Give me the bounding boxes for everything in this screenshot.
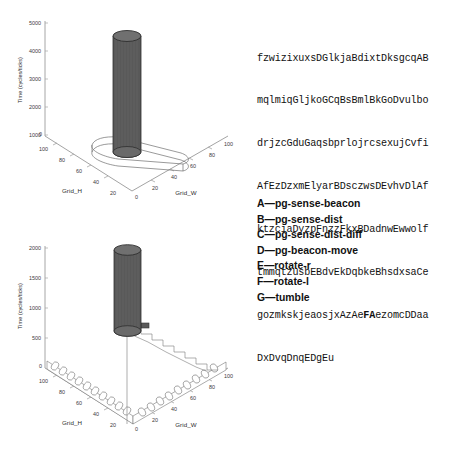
grid-h-tick-label: 0 — [39, 363, 42, 369]
z-tick-label: 2000 — [29, 245, 41, 251]
legend-dash: — — [265, 229, 275, 240]
grid-w-tick-label: 40 — [171, 174, 177, 180]
grid-h-tick-label: 100 — [39, 146, 48, 152]
grid-w-tick-label: 0 — [135, 194, 138, 200]
sequence-line: gozmkskjeaosjxAzAeFAezomcDDaa — [257, 309, 465, 323]
grid-w-axis-title: Grid_W — [175, 421, 197, 428]
grid-h-tick-label: 60 — [76, 168, 82, 174]
staircase-surface — [130, 328, 218, 371]
z-axis-title: Time (cycles/ticks) — [17, 283, 23, 329]
grid-h-tick-label: 60 — [76, 400, 82, 406]
legend-dash: — — [265, 214, 275, 225]
right-column: fzwizixuxsDGlkjaBdixtDksgcqAB mqlmiqGljk… — [252, 0, 465, 457]
z-tick-label: 5000 — [29, 20, 41, 26]
legend-label: pg-beacon-move — [275, 245, 358, 256]
z-ticks — [45, 23, 48, 135]
peak-cylinder — [113, 31, 141, 158]
grid-w-tick-label: 20 — [152, 417, 158, 423]
grid-w-tick-label: 100 — [224, 373, 233, 379]
legend-item: D—pg-beacon-move — [257, 243, 457, 259]
grid-w-tick-label: 80 — [209, 384, 215, 390]
legend-label: tumble — [275, 292, 309, 303]
legend-label: rotate-r — [274, 260, 310, 271]
z-tick-label: 500 — [32, 335, 41, 341]
z-axis-title: Time (cycles/ticks) — [17, 57, 23, 103]
legend: A—pg-sense-beacon B—pg-sense-dist C—pg-s… — [257, 196, 457, 305]
grid-w-tick-label: 0 — [135, 426, 138, 432]
grid-h-tick-label: 100 — [39, 378, 48, 384]
grid-h-tick-label: 20 — [110, 190, 116, 196]
grid-w-tick-label: 60 — [190, 395, 196, 401]
legend-key: B — [257, 214, 265, 225]
legend-dash: — — [263, 276, 273, 287]
plot-top: 5000 4000 3000 2000 1000 Time (cycles/ti… — [0, 5, 245, 230]
legend-label: pg-sense-dist-diff — [275, 229, 362, 240]
z-tick-label: 1000 — [29, 305, 41, 311]
legend-label: pg-sense-dist — [275, 214, 343, 225]
legend-dash: — — [264, 260, 274, 271]
sequence-line: drjzcGduGaqsbprlojrcsexujCvfi — [257, 137, 465, 151]
plot-top-svg: 5000 4000 3000 2000 1000 Time (cycles/ti… — [0, 5, 245, 230]
z-tick-label: 1500 — [29, 275, 41, 281]
grid-w-tick-label: 80 — [209, 152, 215, 158]
legend-label: rotate-l — [274, 276, 309, 287]
legend-key: G — [257, 292, 265, 303]
grid-w-axis-title: Grid_W — [175, 189, 197, 196]
legend-item: B—pg-sense-dist — [257, 212, 457, 228]
sequence-line: DxDvqDnqEDgEu — [257, 352, 465, 366]
grid-w-tick-label: 100 — [224, 141, 233, 147]
legend-key: C — [257, 229, 265, 240]
grid-h-axis-title: Grid_H — [62, 419, 82, 426]
grid-w-ticks — [151, 379, 212, 414]
sequence-line: mqlmiqGljkoGCqBsBmlBkGoDvulbo — [257, 94, 465, 108]
sequence-highlight: FA — [363, 310, 375, 321]
z-ticks — [45, 248, 48, 338]
z-tick-label: 3000 — [29, 76, 41, 82]
grid-w-tick-label: 40 — [171, 406, 177, 412]
wall-ridge-bars — [47, 361, 226, 424]
legend-key: D — [257, 245, 265, 256]
grid-h-axis-title: Grid_H — [62, 187, 82, 194]
legend-dash: — — [265, 198, 275, 209]
grid-h-tick-label: 40 — [93, 411, 99, 417]
legend-label: pg-sense-beacon — [275, 198, 360, 209]
legend-dash: — — [265, 292, 275, 303]
grid-h-tick-label: 20 — [110, 422, 116, 428]
grid-w-tick-label: 20 — [152, 185, 158, 191]
grid-w-tick-label: 60 — [190, 163, 196, 169]
legend-key: A — [257, 198, 265, 209]
z-tick-label: 2000 — [29, 104, 41, 110]
grid-h-tick-label: 80 — [59, 389, 65, 395]
legend-item: E—rotate-r — [257, 258, 457, 274]
plot-bottom-svg: 2000 1500 1000 500 Time (cycles/ticks) 0… — [0, 228, 245, 457]
legend-key: E — [257, 260, 264, 271]
grid-w-ticks — [151, 147, 212, 182]
grid-h-tick-label: 0 — [39, 131, 42, 137]
side-nub — [141, 323, 149, 328]
plot-bottom: 2000 1500 1000 500 Time (cycles/ticks) 0… — [0, 228, 245, 453]
legend-item: A—pg-sense-beacon — [257, 196, 457, 212]
sequence-line: AfEzDzxmElyarBDsczwsDEvhvDlAf — [257, 180, 465, 194]
grid-h-tick-label: 40 — [93, 179, 99, 185]
grid-h-tick-label: 80 — [59, 157, 65, 163]
z-tick-label: 4000 — [29, 48, 41, 54]
legend-dash: — — [265, 245, 275, 256]
sequence-line: fzwizixuxsDGlkjaBdixtDksgcqAB — [257, 52, 465, 66]
peak-cylinder — [114, 245, 141, 337]
legend-item: G—tumble — [257, 290, 457, 306]
legend-item: F—rotate-l — [257, 274, 457, 290]
legend-item: C—pg-sense-dist-diff — [257, 227, 457, 243]
